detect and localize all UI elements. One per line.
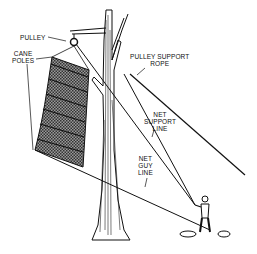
label-net-support-line: NET SUPPORT LINE xyxy=(144,111,176,132)
label-net-support-line-line1: NET xyxy=(144,111,176,118)
label-pulley-support-rope: PULLEY SUPPORT ROPE xyxy=(130,53,189,67)
label-cane-poles-line2: POLES xyxy=(12,57,34,64)
label-net-guy-line-line1: NET xyxy=(138,155,153,162)
label-net-guy-line-line2: GUY xyxy=(138,162,153,169)
person-figure xyxy=(180,196,230,237)
label-net-support-line-line2: SUPPORT xyxy=(144,118,176,125)
label-cane-poles: CANE POLES xyxy=(12,50,34,64)
label-pulley: PULLEY xyxy=(20,34,46,41)
label-net-support-line-line3: LINE xyxy=(144,125,176,132)
label-pulley-support-rope-line1: PULLEY SUPPORT xyxy=(130,53,189,60)
label-net-guy-line-line3: LINE xyxy=(138,169,153,176)
net-support-line xyxy=(76,44,195,205)
hanging-net xyxy=(35,57,89,167)
net-support-line-lower xyxy=(124,74,195,205)
label-net-guy-line: NET GUY LINE xyxy=(138,155,153,176)
tree xyxy=(92,10,130,240)
label-cane-poles-line1: CANE xyxy=(12,50,34,57)
pulley-branch xyxy=(70,28,106,34)
diagram-canvas: PULLEY CANE POLES PULLEY SUPPORT ROPE NE… xyxy=(0,0,257,254)
label-pulley-support-rope-line2: ROPE xyxy=(130,60,189,67)
